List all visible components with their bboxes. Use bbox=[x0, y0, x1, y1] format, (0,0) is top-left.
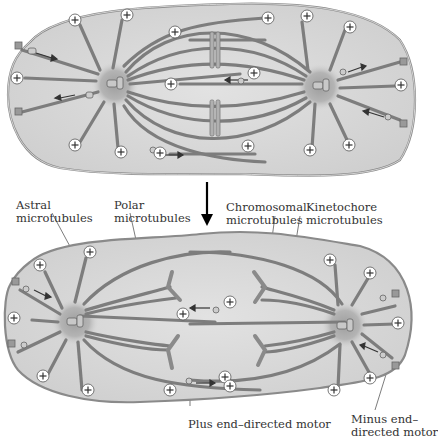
label-astral-microtubules: Astral microtubules bbox=[16, 199, 93, 225]
top-cell bbox=[8, 4, 415, 176]
label-plus-end-directed-motor: Plus end–directed motor bbox=[188, 418, 331, 431]
label-minus-end-directed-motor: Minus end– directed motor bbox=[351, 413, 438, 439]
down-arrow-icon bbox=[201, 182, 213, 226]
label-chromosomal-microtubules: Chromosomal microtubules bbox=[226, 201, 307, 227]
label-kinetochore-microtubules: Kinetochore microtubules bbox=[306, 201, 383, 227]
bottom-cell bbox=[5, 232, 412, 402]
label-polar-microtubules: Polar microtubules bbox=[114, 199, 191, 225]
